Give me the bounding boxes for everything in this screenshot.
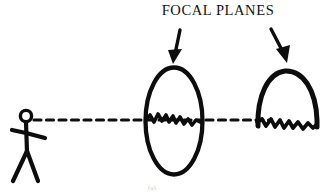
arrow-to-ellipse xyxy=(168,30,182,64)
arrow-to-dome xyxy=(271,29,290,63)
focal-plane-dome-wave xyxy=(257,119,317,129)
focal-plane-dome-outline xyxy=(258,71,317,127)
diagram-canvas xyxy=(0,0,324,193)
focal-plane-ellipse-wave xyxy=(146,114,202,125)
observer-torso xyxy=(26,122,27,152)
caption-partial: (a) xyxy=(148,184,188,190)
arrow-left-head-icon xyxy=(168,49,182,64)
dome-focal-plane xyxy=(257,71,317,129)
ellipse-focal-plane xyxy=(146,68,203,175)
focal-planes-figure: FOCAL PLANES (a) xyxy=(0,0,324,193)
observer-legs xyxy=(13,151,38,181)
arrow-right-head-icon xyxy=(276,45,290,63)
